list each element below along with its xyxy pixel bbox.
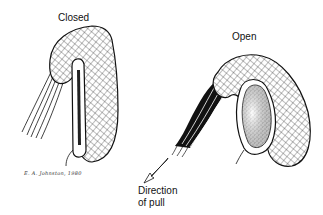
direction-label-line1: Direction	[138, 185, 177, 196]
closed-cartilage-diagram	[22, 26, 118, 166]
direction-label-line2: of pull	[138, 197, 165, 208]
closed-label: Closed	[58, 12, 89, 23]
direction-of-pull-arrow	[144, 158, 168, 183]
open-cartilage-diagram	[144, 55, 310, 183]
illustration	[0, 0, 323, 215]
figure-canvas: Closed Open Direction of pull E. A. John…	[0, 0, 323, 215]
open-label: Open	[232, 31, 256, 42]
artist-signature: E. A. Johnston, 1980	[24, 170, 82, 176]
